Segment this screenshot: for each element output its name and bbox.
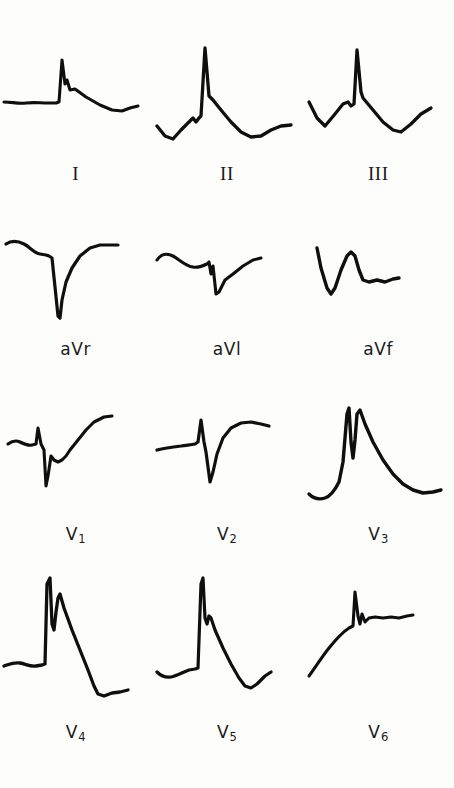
ecg-row-augmented-leads: aVr aVl aVf xyxy=(0,222,454,372)
ecg-trace-V2 xyxy=(151,398,302,516)
ecg-lead-label-V6-subscript: 6 xyxy=(381,730,389,744)
ecg-lead-cell-V2: V2 xyxy=(151,398,302,558)
ecg-lead-label-V1: V1 xyxy=(66,526,86,543)
ecg-lead-cell-V6: V6 xyxy=(303,572,454,762)
ecg-trace-aVr xyxy=(0,222,151,327)
ecg-lead-label-aVf: aVf xyxy=(363,341,393,358)
ecg-trace-aVl xyxy=(151,222,302,327)
ecg-trace-V4 xyxy=(0,572,151,712)
ecg-figure: I II III xyxy=(0,0,454,788)
ecg-lead-label-aVr: aVr xyxy=(60,341,91,358)
ecg-lead-label-III: III xyxy=(368,164,388,183)
ecg-lead-label-V1-letter: V xyxy=(66,524,78,544)
ecg-trace-V6 xyxy=(303,572,454,712)
ecg-waveform-path-aVf xyxy=(317,248,399,294)
ecg-lead-cell-II: II xyxy=(151,40,302,200)
ecg-lead-cell-III: III xyxy=(303,40,454,200)
ecg-lead-label-V2: V2 xyxy=(217,526,237,543)
ecg-waveform-path-V2 xyxy=(157,420,269,482)
ecg-lead-cell-V3: V3 xyxy=(303,398,454,558)
ecg-trace-II xyxy=(151,40,302,152)
ecg-lead-cell-V1: V1 xyxy=(0,398,151,558)
ecg-lead-cell-V4: V4 xyxy=(0,572,151,762)
ecg-waveform-path-aVl xyxy=(157,254,261,294)
ecg-waveform-path-III xyxy=(309,50,431,132)
ecg-lead-label-V1-subscript: 1 xyxy=(78,532,86,546)
ecg-trace-III xyxy=(303,40,454,152)
ecg-lead-label-V4-subscript: 4 xyxy=(78,730,86,744)
ecg-lead-label-V6-letter: V xyxy=(368,722,380,742)
ecg-row-precordial-v1-v3: V1 V2 V3 xyxy=(0,398,454,558)
ecg-trace-V5 xyxy=(151,572,302,712)
ecg-trace-aVf xyxy=(303,222,454,327)
ecg-lead-cell-aVf: aVf xyxy=(303,222,454,372)
ecg-waveform-path-V4 xyxy=(4,578,128,696)
ecg-lead-label-aVl: aVl xyxy=(213,341,242,358)
ecg-waveform-path-II xyxy=(157,48,291,139)
ecg-lead-label-V2-letter: V xyxy=(217,524,229,544)
ecg-lead-label-V3: V3 xyxy=(368,526,388,543)
ecg-lead-cell-V5: V5 xyxy=(151,572,302,762)
ecg-lead-label-V5-letter: V xyxy=(217,722,229,742)
ecg-row-precordial-v4-v6: V4 V5 V6 xyxy=(0,572,454,762)
ecg-waveform-path-V5 xyxy=(157,578,271,688)
ecg-lead-label-V4-letter: V xyxy=(66,722,78,742)
ecg-lead-label-V2-subscript: 2 xyxy=(230,532,238,546)
ecg-waveform-path-V6 xyxy=(309,592,413,676)
ecg-lead-label-I: I xyxy=(72,164,79,183)
ecg-lead-cell-aVr: aVr xyxy=(0,222,151,372)
ecg-trace-I xyxy=(0,40,151,152)
ecg-lead-label-V4: V4 xyxy=(66,724,86,741)
ecg-waveform-path-V1 xyxy=(8,416,112,486)
ecg-lead-label-V5-subscript: 5 xyxy=(230,730,238,744)
ecg-lead-cell-I: I xyxy=(0,40,151,200)
ecg-lead-label-V5: V5 xyxy=(217,724,237,741)
ecg-lead-cell-aVl: aVl xyxy=(151,222,302,372)
ecg-waveform-path-aVr xyxy=(6,241,118,318)
ecg-lead-label-II: II xyxy=(220,164,234,183)
ecg-trace-V1 xyxy=(0,398,151,516)
ecg-lead-label-V3-letter: V xyxy=(368,524,380,544)
ecg-lead-label-V3-subscript: 3 xyxy=(381,532,389,546)
ecg-row-limb-leads: I II III xyxy=(0,40,454,200)
ecg-waveform-path-V3 xyxy=(309,408,441,499)
ecg-lead-label-V6: V6 xyxy=(368,724,388,741)
ecg-trace-V3 xyxy=(303,398,454,516)
ecg-waveform-path-I xyxy=(4,60,138,111)
